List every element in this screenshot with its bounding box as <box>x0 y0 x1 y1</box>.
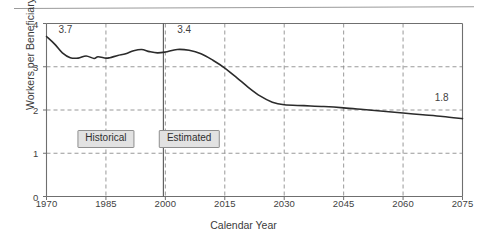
x-tick-label-2000: 2000 <box>155 198 177 209</box>
x-tick-label-2045: 2045 <box>333 198 355 209</box>
x-tick-label-2030: 2030 <box>273 198 295 209</box>
x-axis-title: Calendar Year <box>0 219 487 231</box>
value-label-end: 1.8 <box>435 92 449 103</box>
y-axis-title: Workers per Beneficiary <box>24 0 36 144</box>
series-line-workers-per-beneficiary <box>47 36 463 118</box>
x-tick-label-2060: 2060 <box>392 198 414 209</box>
chart-plot-area <box>0 0 487 246</box>
x-tick-label-2015: 2015 <box>214 198 236 209</box>
x-tick-label-2075: 2075 <box>452 198 474 209</box>
y-tick-label-0: 0 <box>25 191 39 202</box>
x-tick-label-1970: 1970 <box>36 198 58 209</box>
value-label-start: 3.7 <box>58 24 72 35</box>
period-historical: Historical <box>77 130 134 148</box>
y-tick-label-1: 1 <box>25 148 39 159</box>
value-label-2000: 3.4 <box>177 24 191 35</box>
period-estimated: Estimated <box>159 130 219 148</box>
x-tick-label-1985: 1985 <box>95 198 117 209</box>
grid-lines <box>47 24 463 197</box>
chart-figure: 19701985200020152030204520602075 01234 3… <box>0 0 487 246</box>
